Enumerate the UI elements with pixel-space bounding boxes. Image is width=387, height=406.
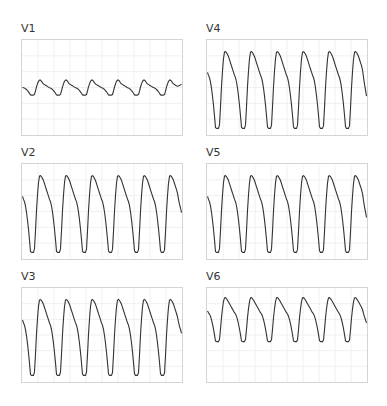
ecg-trace-svg (207, 288, 367, 382)
ecg-strip-v5 (206, 163, 368, 260)
lead-label-v6: V6 (206, 270, 221, 283)
ecg-trace-svg (207, 164, 367, 259)
lead-label-v1: V1 (21, 22, 36, 35)
ecg-trace-svg (22, 40, 182, 135)
ecg-trace-svg (22, 288, 182, 382)
ecg-strip-v2 (21, 163, 183, 260)
ecg-strip-v1 (21, 39, 183, 136)
lead-label-v2: V2 (21, 146, 36, 159)
ecg-strip-v3 (21, 287, 183, 383)
ecg-strip-v6 (206, 287, 368, 383)
ecg-trace-svg (207, 40, 367, 135)
lead-label-v3: V3 (21, 270, 36, 283)
ecg-trace-svg (22, 164, 182, 259)
lead-label-v5: V5 (206, 146, 221, 159)
lead-label-v4: V4 (206, 22, 221, 35)
ecg-strip-v4 (206, 39, 368, 136)
